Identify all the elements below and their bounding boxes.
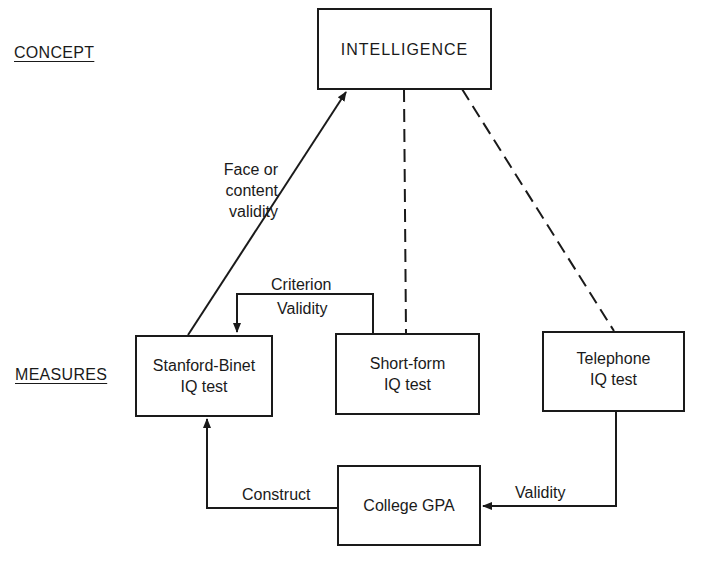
level-label-concept: CONCEPT: [14, 44, 94, 62]
dashed-link-short-form: [404, 89, 406, 333]
node-short-form-label: Short-form IQ test: [370, 353, 446, 395]
node-college-gpa-label: College GPA: [363, 495, 454, 516]
node-telephone: Telephone IQ test: [542, 331, 685, 412]
node-intelligence-label: INTELLIGENCE: [341, 39, 469, 60]
level-label-measures: MEASURES: [15, 366, 107, 384]
edge-label-criterion-validity: Validity: [277, 298, 327, 319]
node-stanford-binet-label: Stanford-Binet IQ test: [153, 355, 255, 397]
node-short-form: Short-form IQ test: [335, 333, 480, 415]
node-college-gpa: College GPA: [337, 465, 481, 546]
node-intelligence: INTELLIGENCE: [317, 8, 492, 90]
edge-label-face-content-validity: Face or content validity: [196, 159, 278, 222]
node-stanford-binet: Stanford-Binet IQ test: [135, 335, 273, 417]
edge-label-construct: Construct: [242, 484, 310, 505]
node-telephone-label: Telephone IQ test: [577, 348, 651, 390]
edge-label-validity: Validity: [515, 482, 565, 503]
dashed-link-telephone: [462, 89, 614, 331]
edge-label-criterion: Criterion: [271, 274, 331, 295]
